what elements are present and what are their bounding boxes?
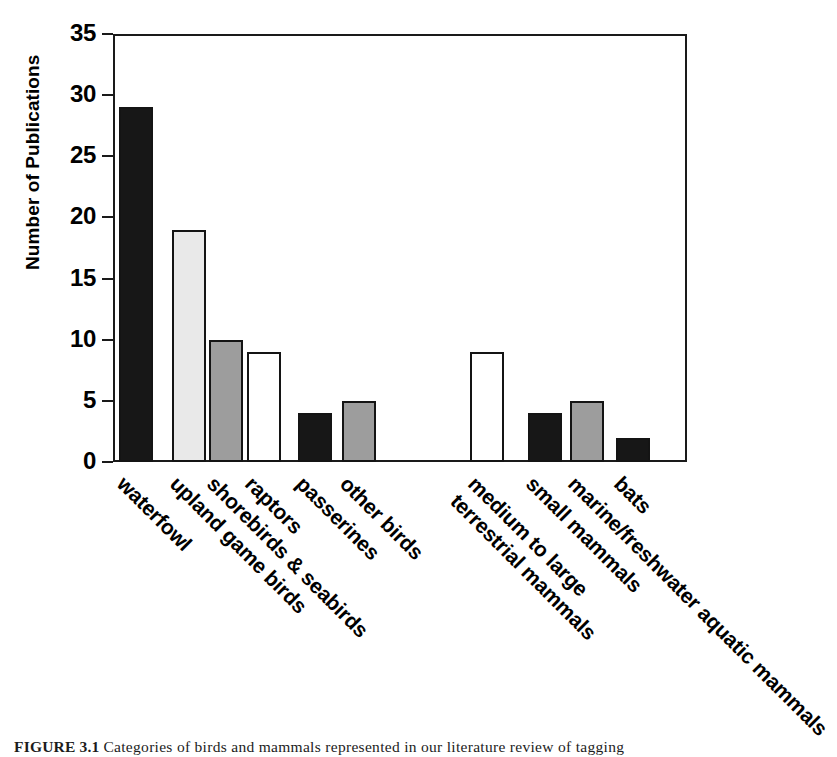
figure-caption: FIGURE 3.1 Categories of birds and mamma… [14, 737, 824, 757]
y-tick-mark [102, 155, 113, 157]
y-tick-label: 15 [70, 265, 96, 291]
y-tick-label: 25 [70, 142, 96, 168]
bar-raptors [247, 352, 281, 462]
bar-small-mammals [528, 413, 562, 462]
y-tick-mark [102, 33, 113, 35]
bar-waterfowl [119, 107, 153, 462]
y-tick-mark [102, 339, 113, 341]
bar-other-birds [342, 401, 376, 462]
bar-bats [616, 438, 650, 462]
y-tick-mark [102, 94, 113, 96]
figure-number: FIGURE 3.1 [14, 738, 100, 755]
bar-medium-to-large-terrestrial-mammals [470, 352, 504, 462]
bars-layer [113, 34, 687, 462]
y-tick-label: 0 [83, 448, 96, 474]
bar-upland-game-birds [172, 230, 206, 462]
y-axis-ticks: 05101520253035 [0, 0, 113, 500]
bar-shorebirds-seabirds [209, 340, 243, 462]
figure-caption-text: Categories of birds and mammals represen… [103, 738, 624, 755]
y-tick-label: 5 [83, 387, 96, 413]
y-tick-label: 20 [70, 203, 96, 229]
bar-marine-freshwater-aquatic-mammals [570, 401, 604, 462]
y-tick-label: 35 [70, 20, 96, 46]
y-tick-mark [102, 461, 113, 463]
bar-passerines [298, 413, 332, 462]
y-tick-label: 30 [70, 81, 96, 107]
y-tick-label: 10 [70, 326, 96, 352]
y-tick-mark [102, 216, 113, 218]
y-tick-mark [102, 278, 113, 280]
y-tick-mark [102, 400, 113, 402]
figure-container: Number of Publications 05101520253035 wa… [0, 0, 837, 757]
